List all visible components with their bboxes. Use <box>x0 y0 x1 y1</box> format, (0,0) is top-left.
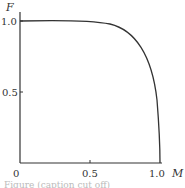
figure-caption: Figure (caption cut off) <box>4 180 184 188</box>
chart: F 1.0 0.5 0 0.5 1.0 M <box>0 0 185 188</box>
y-tick-label-05: 0.5 <box>2 87 18 98</box>
y-axis-label: F <box>5 1 14 14</box>
x-axis-label: M <box>171 167 184 180</box>
x-tick-label-1: 1.0 <box>149 168 165 179</box>
x-tick-label-0: 0 <box>13 168 19 179</box>
data-curve <box>20 20 160 163</box>
x-tick-label-05: 0.5 <box>82 168 98 179</box>
y-tick-label-1: 1.0 <box>1 16 17 27</box>
